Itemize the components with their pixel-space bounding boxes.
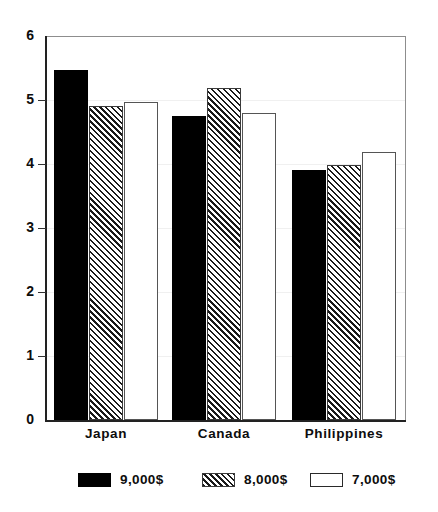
bar-japan-9000 (54, 70, 88, 420)
legend-label-8000: 8,000$ (244, 473, 288, 487)
legend-item-7000[interactable]: 7,000$ (310, 470, 396, 490)
legend-swatch-open (310, 473, 343, 487)
bar-chart: 0123456 JapanCanadaPhilippines 9,000$8,0… (0, 0, 438, 512)
legend-item-9000[interactable]: 9,000$ (78, 470, 164, 490)
y-tick-2 (38, 292, 46, 293)
y-tick-label-1: 1 (8, 348, 34, 362)
bar-japan-7000 (124, 102, 158, 420)
bar-philippines-7000 (362, 152, 396, 420)
plot-border-right (405, 36, 406, 421)
legend-swatch-hatch (202, 473, 235, 487)
y-tick-5 (38, 100, 46, 101)
x-axis-label-philippines: Philippines (274, 427, 414, 441)
bar-canada-8000 (207, 88, 241, 420)
legend-swatch-solid (78, 473, 111, 487)
x-axis-label-canada: Canada (154, 427, 294, 441)
x-axis-line (45, 420, 406, 422)
legend-label-7000: 7,000$ (352, 473, 396, 487)
y-tick-label-6: 6 (8, 28, 34, 42)
y-tick-label-0: 0 (8, 412, 34, 426)
bar-philippines-8000 (327, 165, 361, 420)
bar-canada-7000 (242, 113, 276, 420)
legend-item-8000[interactable]: 8,000$ (202, 470, 288, 490)
y-tick-4 (38, 164, 46, 165)
y-tick-label-3: 3 (8, 220, 34, 234)
bar-japan-8000 (89, 106, 123, 420)
y-tick-label-2: 2 (8, 284, 34, 298)
y-tick-1 (38, 356, 46, 357)
bar-philippines-9000 (292, 170, 326, 420)
y-tick-3 (38, 228, 46, 229)
y-tick-label-4: 4 (8, 156, 34, 170)
legend-label-9000: 9,000$ (120, 473, 164, 487)
bar-canada-9000 (172, 116, 206, 420)
chart-legend: 9,000$8,000$7,000$ (0, 470, 438, 494)
y-tick-label-5: 5 (8, 92, 34, 106)
plot-border-top (45, 36, 406, 37)
